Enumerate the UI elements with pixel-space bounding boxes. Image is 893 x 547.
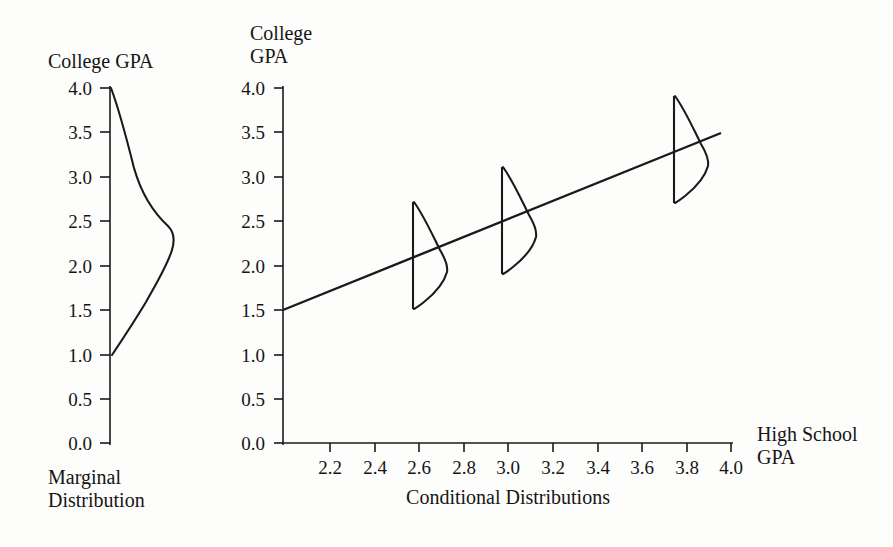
marginal-y-tick-2-5: 2.5 (40, 212, 92, 231)
conditional-y-tick-1-0: 1.0 (213, 346, 265, 365)
marginal-y-tick-1-0: 1.0 (40, 346, 92, 365)
marginal-y-tick-marks (100, 88, 110, 443)
conditional-y-tick-0-5: 0.5 (213, 390, 265, 409)
marginal-y-tick-0-5: 0.5 (40, 390, 92, 409)
conditional-y-axis-title-line-1: College (250, 22, 312, 45)
conditional-panel-graphics (274, 86, 733, 452)
conditional-y-tick-4-0: 4.0 (213, 79, 265, 98)
marginal-y-tick-4-0: 4.0 (40, 79, 92, 98)
marginal-y-tick-1-5: 1.5 (40, 301, 92, 320)
conditional-y-tick-3-0: 3.0 (213, 168, 265, 187)
conditional-x-tick-2-8: 2.8 (440, 458, 488, 477)
statistics-figure: College GPA 4.0 3.5 3.0 2.5 2.0 1.5 1.0 … (0, 0, 893, 547)
conditional-density-2-curve (503, 167, 536, 274)
conditional-y-tick-marks (274, 88, 283, 443)
conditional-x-axis-title-line-2: GPA (757, 446, 795, 469)
conditional-x-tick-3-6: 3.6 (618, 458, 666, 477)
conditional-y-tick-2-5: 2.5 (213, 212, 265, 231)
conditional-x-tick-2-4: 2.4 (351, 458, 399, 477)
conditional-y-tick-1-5: 1.5 (213, 301, 265, 320)
marginal-y-tick-3-0: 3.0 (40, 168, 92, 187)
marginal-panel-title: College GPA (48, 50, 153, 73)
marginal-y-tick-0-0: 0.0 (40, 434, 92, 453)
marginal-density-curve (111, 88, 174, 355)
marginal-caption-line-1: Marginal (48, 466, 121, 489)
conditional-x-tick-marks (330, 443, 731, 452)
conditional-y-axis-title-line-2: GPA (250, 45, 288, 68)
marginal-y-tick-2-0: 2.0 (40, 257, 92, 276)
conditional-x-tick-3-0: 3.0 (484, 458, 532, 477)
conditional-x-tick-2-6: 2.6 (395, 458, 443, 477)
conditional-y-tick-0-0: 0.0 (213, 434, 265, 453)
conditional-caption: Conditional Distributions (283, 486, 733, 509)
marginal-y-tick-3-5: 3.5 (40, 123, 92, 142)
conditional-x-tick-3-8: 3.8 (663, 458, 711, 477)
conditional-x-tick-2-2: 2.2 (306, 458, 354, 477)
conditional-x-tick-3-4: 3.4 (574, 458, 622, 477)
conditional-y-tick-3-5: 3.5 (213, 123, 265, 142)
conditional-y-tick-2-0: 2.0 (213, 257, 265, 276)
conditional-x-tick-4-0: 4.0 (707, 458, 755, 477)
conditional-x-tick-3-2: 3.2 (529, 458, 577, 477)
marginal-caption-line-2: Distribution (48, 489, 145, 512)
conditional-x-axis-title-line-1: High School (757, 423, 858, 446)
marginal-panel-graphics (100, 86, 174, 445)
